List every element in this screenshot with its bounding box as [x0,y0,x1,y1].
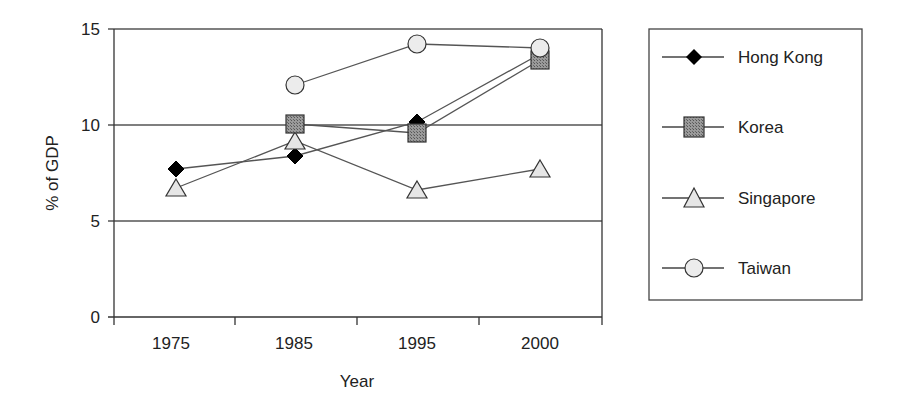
y-tick-label: 15 [81,20,100,39]
line-chart: 15 10 5 0 1975 1985 1995 2000 Year % of … [0,0,898,404]
x-tick-labels: 1975 1985 1995 2000 [152,334,559,353]
x-tick-label: 1995 [398,334,436,353]
y-tick-label: 5 [91,212,100,231]
legend-label: Korea [738,118,784,137]
y-tick-label: 10 [81,116,100,135]
triangle-marker [407,181,427,198]
diamond-marker [168,161,184,177]
triangle-marker [166,179,186,196]
legend: Hong Kong Korea Singapore Taiwan [649,29,862,300]
singapore-line [176,141,540,190]
series-lines [176,44,540,190]
legend-label: Taiwan [738,259,791,278]
circle-icon [685,259,703,277]
plot-area [108,29,602,325]
korea-markers [286,51,549,142]
square-marker [286,115,304,133]
diamond-marker [287,148,303,164]
x-axis-title: Year [340,372,375,391]
y-tick-label: 0 [91,308,100,327]
y-tick-labels: 15 10 5 0 [81,20,100,327]
triangle-marker [530,160,550,177]
hong-kong-line [176,54,540,169]
singapore-markers [166,132,550,198]
y-axis-title: % of GDP [43,135,62,211]
legend-label: Singapore [738,189,816,208]
hong-kong-markers [168,46,548,177]
x-tick-label: 2000 [521,334,559,353]
taiwan-markers [286,35,549,94]
square-marker [408,124,426,142]
circle-marker [408,35,426,53]
x-tick-label: 1975 [152,334,190,353]
legend-label: Hong Kong [738,48,823,67]
square-icon [684,117,704,137]
circle-marker [286,76,304,94]
x-tick-label: 1985 [275,334,313,353]
circle-marker [531,39,549,57]
triangle-marker [285,132,305,149]
